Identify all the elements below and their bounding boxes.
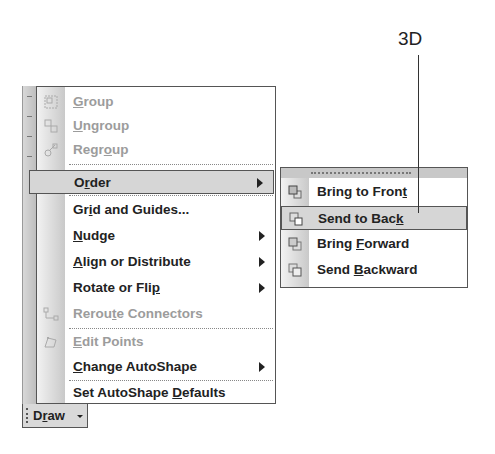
menu-item-grid-and-guides[interactable]: Grid and Guides...: [37, 198, 275, 222]
toolbar-strip: [22, 86, 37, 404]
menu-separator: [69, 164, 273, 165]
menu-item-order[interactable]: Order: [29, 170, 274, 194]
menu-item-label: Rotate or Flip: [73, 280, 160, 295]
submenu-item-send-to-back[interactable]: Send to Back: [281, 206, 467, 230]
submenu-item-bring-to-front[interactable]: Bring to Front: [281, 180, 467, 204]
draw-button-label: Draw: [33, 408, 65, 423]
menu-item-label: Grid and Guides...: [73, 202, 189, 217]
submenu-arrow-icon: [259, 231, 265, 241]
regroup-icon: [43, 142, 59, 158]
menu-item-label: Nudge: [73, 228, 115, 243]
ungroup-icon: [43, 118, 59, 134]
menu-item-label: Reroute Connectors: [73, 306, 203, 321]
submenu-arrow-icon: [259, 362, 265, 372]
submenu-arrow-icon: [259, 257, 265, 267]
edit-points-icon: [43, 334, 59, 350]
menu-item-label: Group: [73, 94, 114, 109]
menu-item-label: Edit Points: [73, 334, 144, 349]
menu-item-align-or-distribute[interactable]: Align or Distribute: [37, 250, 275, 274]
draw-menu: Group Ungroup Regroup Order Grid and Gui…: [36, 86, 276, 404]
submenu-item-label: Send Backward: [317, 262, 418, 277]
menu-item-set-autoshape-defaults[interactable]: Set AutoShape Defaults: [37, 381, 275, 405]
reroute-connectors-icon: [43, 306, 59, 322]
submenu-arrow-icon: [259, 283, 265, 293]
submenu-item-label: Bring Forward: [317, 236, 409, 251]
group-icon: [43, 94, 59, 110]
menu-item-label: Regroup: [73, 142, 129, 157]
menu-item-label: Order: [74, 175, 111, 190]
menu-item-edit-points[interactable]: Edit Points: [37, 330, 275, 354]
callout-label: 3D: [398, 28, 422, 50]
menu-item-label: Change AutoShape: [73, 359, 197, 374]
menu-item-label: Align or Distribute: [73, 254, 191, 269]
submenu-item-send-backward[interactable]: Send Backward: [281, 258, 467, 282]
menu-item-nudge[interactable]: Nudge: [37, 224, 275, 248]
menu-item-label: Ungroup: [73, 118, 129, 133]
send-to-back-icon: [288, 211, 304, 227]
menu-item-rotate-or-flip[interactable]: Rotate or Flip: [37, 276, 275, 300]
menu-item-change-autoshape[interactable]: Change AutoShape: [37, 355, 275, 379]
menu-item-label: Set AutoShape Defaults: [73, 385, 226, 400]
menu-item-ungroup[interactable]: Ungroup: [37, 114, 275, 138]
order-submenu: Bring to Front Send to Back Bring Forwar…: [280, 167, 468, 288]
submenu-item-label: Send to Back: [318, 211, 404, 226]
submenu-arrow-icon: [257, 178, 263, 188]
bring-to-front-icon: [287, 184, 303, 200]
menu-item-reroute-connectors[interactable]: Reroute Connectors: [37, 302, 275, 326]
callout-leader-line: [418, 55, 419, 213]
menu-item-regroup[interactable]: Regroup: [37, 138, 275, 162]
menu-separator: [69, 195, 273, 196]
dropdown-caret-icon: [77, 415, 83, 418]
menu-separator: [69, 328, 273, 329]
menu-item-group[interactable]: Group: [37, 90, 275, 114]
toolbar-grip-handle[interactable]: [26, 408, 28, 423]
bring-forward-icon: [287, 236, 303, 252]
submenu-item-bring-forward[interactable]: Bring Forward: [281, 232, 467, 256]
send-backward-icon: [287, 262, 303, 278]
submenu-drag-handle[interactable]: [281, 168, 467, 178]
submenu-item-label: Bring to Front: [317, 184, 407, 199]
draw-menu-button[interactable]: Draw: [22, 404, 88, 428]
